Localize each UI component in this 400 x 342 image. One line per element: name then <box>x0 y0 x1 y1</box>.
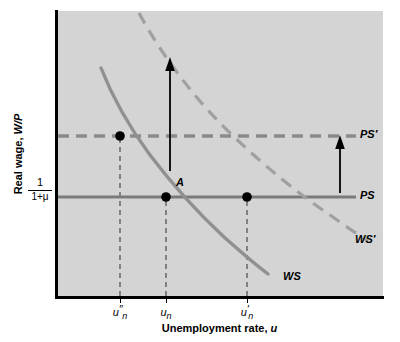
x-tick-subscript: n <box>248 311 253 321</box>
ps-label: PS <box>360 189 375 201</box>
y-axis-label-prefix: Real wage, <box>12 134 24 194</box>
chart-plot-overlay <box>0 0 400 342</box>
y-tick-label-one-over-one-plus-mu: 1 1+μ <box>26 177 54 202</box>
x-tick-label-u-prime-n: u′n <box>224 303 270 321</box>
y-axis-label-variable: W/P <box>12 114 24 135</box>
x-tick-label-u-n: un <box>143 303 189 321</box>
ws-label: WS <box>283 270 301 282</box>
x-tick-subscript: n <box>167 311 172 321</box>
chart-figure: Real wage, W/P Unemployment rate, u 1 1+… <box>0 0 400 342</box>
ws-curve <box>101 68 268 274</box>
y-tick-numerator: 1 <box>26 177 54 190</box>
point-a-label: A <box>176 176 184 188</box>
x-axis-label: Unemployment rate, u <box>55 322 384 334</box>
marker-u-prime-n <box>242 192 252 202</box>
ws-prime-label: WS′ <box>355 233 375 245</box>
x-axis-label-variable: u <box>271 322 278 334</box>
x-tick-subscript: n <box>122 311 127 321</box>
ws-prime-curve <box>139 13 368 241</box>
y-tick-denominator: 1+μ <box>26 191 54 203</box>
marker-point-a <box>161 192 171 202</box>
y-axis-label: Real wage, W/P <box>12 74 24 234</box>
shift-arrow-right-icon <box>335 135 345 193</box>
x-tick-label-u-double-prime-n: u″n <box>97 303 143 321</box>
shift-arrow-left-icon <box>165 57 175 171</box>
x-axis-label-prefix: Unemployment rate, <box>162 322 271 334</box>
ps-prime-label: PS′ <box>360 128 377 140</box>
marker-u-double-prime-n <box>115 131 125 141</box>
